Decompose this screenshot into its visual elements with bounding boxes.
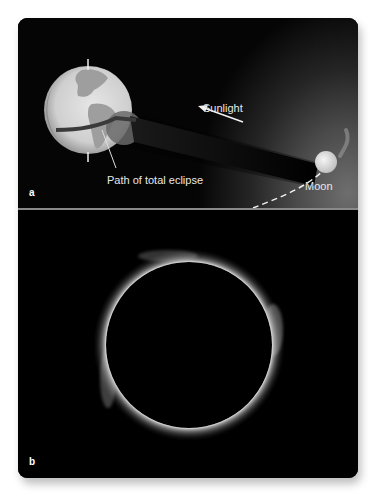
sunlight-label: Sunlight bbox=[203, 102, 243, 114]
path-of-total-eclipse-label: Path of total eclipse bbox=[107, 174, 203, 186]
moon-sphere-icon bbox=[315, 151, 337, 173]
panel-a-letter: a bbox=[29, 187, 35, 198]
eclipse-corona-svg bbox=[18, 210, 358, 478]
moon-label: Moon bbox=[305, 180, 333, 192]
panel-b-eclipse-photo: b bbox=[18, 210, 358, 478]
panel-b-letter: b bbox=[29, 456, 35, 467]
eclipse-figure: Sunlight Path of total eclipse Moon a bbox=[18, 18, 358, 478]
moon-orbit-ghost bbox=[340, 130, 348, 156]
panel-a-diagram: Sunlight Path of total eclipse Moon a bbox=[18, 18, 358, 208]
moon-disk bbox=[106, 262, 272, 428]
